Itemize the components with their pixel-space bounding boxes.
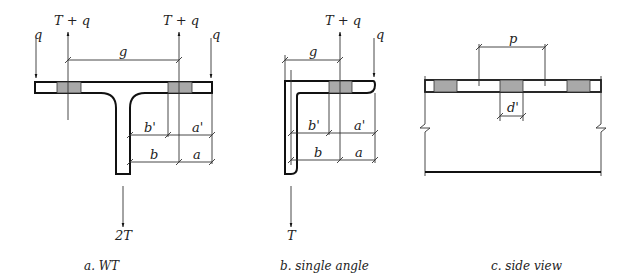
label-a-prime: a' <box>192 120 203 135</box>
label-b: b <box>150 147 158 162</box>
caption-side: c. side view <box>491 259 563 273</box>
figure-side-view: p d' c. side view <box>420 31 606 273</box>
label-q-left: q <box>34 27 42 42</box>
label-d-prime: d' <box>507 100 519 115</box>
figure-single-angle: T + q q g b' a' b a T b. single angle <box>280 13 384 273</box>
wt-section <box>35 82 212 174</box>
caption-angle: b. single angle <box>280 259 369 273</box>
label-q-right: q <box>212 27 220 42</box>
bolt-hole-3 <box>567 80 590 92</box>
label-a-prime: a' <box>354 118 365 133</box>
bolt-hole-1 <box>434 80 457 92</box>
bolt-hole <box>329 81 352 93</box>
figure-wt: q q T + q T + q g b' a' b a 2T a. WT <box>34 13 220 273</box>
label-q: q <box>376 27 384 42</box>
label-a: a <box>193 147 201 162</box>
label-t: T <box>287 228 297 243</box>
label-a: a <box>355 145 363 160</box>
label-b: b <box>314 145 322 160</box>
diagram-canvas: q q T + q T + q g b' a' b a 2T a. WT T +… <box>0 0 635 274</box>
label-g: g <box>119 44 127 59</box>
label-tq-right: T + q <box>163 13 199 28</box>
label-b-prime: b' <box>308 118 320 133</box>
bolt-hole-left <box>57 82 81 93</box>
bolt-hole-right <box>168 82 192 93</box>
label-b-prime: b' <box>144 120 156 135</box>
label-p: p <box>509 31 518 46</box>
label-tq-left: T + q <box>54 13 90 28</box>
label-tq: T + q <box>325 13 361 28</box>
caption-wt: a. WT <box>84 259 120 273</box>
label-2t: 2T <box>114 228 133 243</box>
label-g: g <box>309 44 317 59</box>
bolt-hole-2 <box>500 80 523 92</box>
